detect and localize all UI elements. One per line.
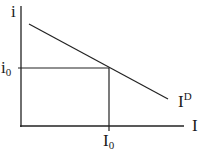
y-axis-label: i [11,3,16,20]
I0-label: I0 [103,132,114,150]
i0-label: i0 [1,59,11,78]
x-axis-label: I [192,117,198,134]
demand-curve [29,24,168,99]
demand-curve-label: ID [178,91,192,110]
diagram-canvas [0,0,201,150]
